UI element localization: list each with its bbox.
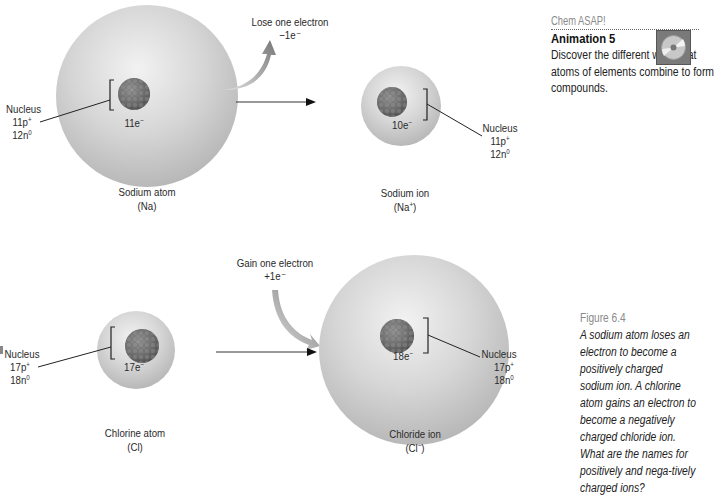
figure-caption-text: A sodium atom loses an electron to becom… <box>580 327 697 497</box>
symbol-close: ) <box>421 442 424 454</box>
figure-label: Figure 6.4 <box>580 310 686 325</box>
gain-electron-arrow-icon <box>272 290 320 350</box>
sodium-atom-neutrons: 12n0 <box>3 129 42 142</box>
chlorine-atom-symbol: (Cl) <box>91 441 179 454</box>
electron-charge: − <box>140 361 144 368</box>
sodium-atom-sphere <box>40 5 238 187</box>
chloride-ion-name: Chloride ion <box>371 428 459 441</box>
gain-electron-label: Gain one electron <box>231 257 319 270</box>
sodium-ion-electrons: 10e− <box>384 119 419 132</box>
electrons-value: 18e <box>393 350 409 362</box>
sodium-atom-protons: 11p+ <box>3 116 42 129</box>
sodium-ion-nucleus-label: Nucleus <box>479 122 521 135</box>
neutrons-value: 12n <box>12 129 28 141</box>
lose-electron-amount: −1e⁻ <box>246 29 334 42</box>
neutron-charge: 0 <box>26 374 29 381</box>
cd-disc-graphic <box>657 31 690 64</box>
sodium-atom-electrons: 11e− <box>113 117 155 130</box>
electrons-value: 10e <box>392 119 408 131</box>
neutrons-value: 12n <box>490 148 506 160</box>
electron-charge: − <box>408 119 412 126</box>
chlorine-atom-neutrons: 18n0 <box>2 374 37 387</box>
sodium-atom-symbol: (Na) <box>103 200 191 213</box>
proton-charge: + <box>506 135 510 142</box>
neutron-charge: 0 <box>28 129 31 136</box>
chloride-ion-neutrons: 18n0 <box>483 374 525 387</box>
symbol-base: (Na <box>394 201 410 213</box>
neutron-charge: 0 <box>506 148 509 155</box>
chlorine-atom-nucleus-label: Nucleus <box>3 348 42 361</box>
cd-rom-icon[interactable] <box>656 30 691 65</box>
neutrons-value: 18n <box>494 374 510 386</box>
protons-value: 17p <box>494 361 510 373</box>
sodium-atom-name: Sodium atom <box>103 186 191 199</box>
chem-asap-box: Chem ASAP! Animation 5 Discover the diff… <box>551 14 718 97</box>
proton-charge: + <box>26 361 30 368</box>
top-reaction-arrow-icon <box>236 98 316 106</box>
figure-caption: Figure 6.4 A sodium atom loses an electr… <box>580 310 716 497</box>
electron-charge: − <box>140 117 144 124</box>
animation-title[interactable]: Animation 5 <box>551 32 718 46</box>
proton-charge: + <box>28 116 32 123</box>
sodium-ion-neutrons: 12n0 <box>479 148 521 161</box>
symbol-base: (Cl <box>405 442 417 454</box>
neutrons-value: 18n <box>10 374 26 386</box>
protons-value: 11p <box>490 135 505 147</box>
protons-value: 17p <box>10 361 26 373</box>
chlorine-atom-name: Chlorine atom <box>91 427 179 440</box>
chloride-ion-nucleus-label: Nucleus <box>477 348 521 361</box>
sodium-ion-sphere <box>361 66 482 146</box>
gain-electron-amount: +1e⁻ <box>231 270 319 283</box>
electron-charge: − <box>409 350 413 357</box>
electrons-value: 11e <box>124 117 139 129</box>
proton-charge: + <box>510 361 514 368</box>
sodium-atom-nucleus-label: Nucleus <box>5 103 42 116</box>
chem-asap-title: Chem ASAP! <box>551 14 699 28</box>
sodium-ion-symbol: (Na+) <box>361 201 449 214</box>
bottom-reaction-arrow-icon <box>216 348 317 356</box>
sodium-ion-protons: 11p+ <box>479 135 521 148</box>
lose-electron-label: Lose one electron <box>246 16 334 29</box>
chloride-ion-protons: 17p+ <box>483 361 525 374</box>
electrons-value: 17e <box>124 361 140 373</box>
sodium-ion-name: Sodium ion <box>361 187 449 200</box>
protons-value: 11p <box>12 116 27 128</box>
chlorine-atom-electrons: 17e− <box>115 361 154 374</box>
chlorine-atom-protons: 17p+ <box>2 361 37 374</box>
chlorine-atom-sphere <box>38 311 175 389</box>
animation-description: Discover the different ways that atoms o… <box>551 47 716 97</box>
neutron-charge: 0 <box>510 374 513 381</box>
symbol-close: ) <box>413 201 416 213</box>
chloride-ion-symbol: (Cl−) <box>371 442 459 455</box>
chloride-ion-electrons: 18e− <box>385 350 420 363</box>
